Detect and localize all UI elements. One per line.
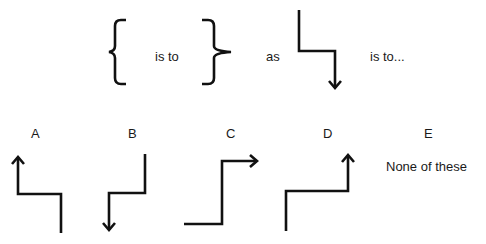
relation-text-2: is to... <box>370 50 405 63</box>
left-brace-icon <box>109 20 126 84</box>
right-brace-icon <box>202 20 231 84</box>
option-c-shape-icon[interactable] <box>184 155 257 224</box>
connector-text: as <box>266 50 280 63</box>
analogy-puzzle: is to as is to... A B C D E None of thes… <box>0 0 486 244</box>
option-a-shape-icon[interactable] <box>12 157 61 233</box>
option-d-shape-icon[interactable] <box>286 155 354 231</box>
puzzle-figures <box>0 0 486 244</box>
relation-text-1: is to <box>155 50 179 63</box>
option-b-shape-icon[interactable] <box>103 154 145 230</box>
option-b-label[interactable]: B <box>128 127 137 140</box>
option-e-text[interactable]: None of these <box>386 160 467 173</box>
option-d-label[interactable]: D <box>323 127 332 140</box>
step-down-arrow-icon <box>299 10 341 88</box>
option-a-label[interactable]: A <box>31 127 40 140</box>
option-c-label[interactable]: C <box>226 127 235 140</box>
option-e-label[interactable]: E <box>424 127 433 140</box>
